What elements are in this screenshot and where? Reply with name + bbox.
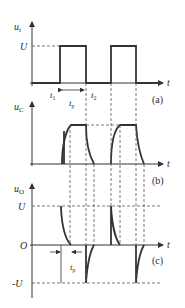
waveform-diagram: ui t U t1 t2 tp (a) uC t (b) uO t U O -U	[0, 0, 185, 308]
panel-b-x-label: t	[167, 158, 170, 169]
panel-c-positive-spike-2	[111, 206, 120, 245]
tp-label-c: tp	[70, 262, 76, 273]
panel-c-level-minus-U: -U	[12, 278, 23, 289]
panel-c-negative-spike-1	[86, 245, 94, 283]
panel-a-pulse-train	[32, 46, 160, 83]
panel-b-y-label: uC	[14, 101, 24, 114]
panel-a-y-label: ui	[14, 21, 21, 34]
panel-a-level-U: U	[20, 41, 28, 52]
panel-b-charge-discharge-2	[111, 125, 144, 164]
panel-c-level-O: O	[20, 240, 27, 251]
panel-c-caption: (c)	[152, 255, 163, 267]
panel-c-y-label: uO	[14, 183, 24, 196]
panel-c-output-waveform: uO t U O -U tp (c)	[12, 183, 170, 298]
t2-label: t2	[91, 90, 97, 101]
t1-label: t1	[50, 90, 56, 101]
panel-a-x-label: t	[167, 77, 170, 88]
alignment-guides	[70, 83, 144, 283]
tp-label-a: tp	[69, 98, 75, 109]
panel-a-input-waveform: ui t U t1 t2 tp (a)	[14, 21, 170, 109]
panel-a-caption: (a)	[152, 94, 163, 106]
panel-c-negative-spike-2	[136, 245, 144, 283]
panel-c-x-label: t	[167, 239, 170, 250]
panel-b-capacitor-waveform: uC t (b)	[14, 101, 170, 187]
panel-b-caption: (b)	[152, 175, 164, 187]
panel-c-positive-spike-1	[61, 206, 71, 245]
panel-c-level-U: U	[18, 201, 26, 212]
panel-b-charge-discharge-1	[62, 125, 94, 164]
